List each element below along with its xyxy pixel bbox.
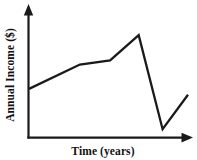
chart-plot-area: Time (years) Annual Income ($) bbox=[0, 0, 197, 160]
line-chart: Time (years) Annual Income ($) bbox=[0, 0, 197, 160]
y-axis-label: Annual Income ($) bbox=[4, 28, 17, 122]
income-data-line bbox=[29, 35, 188, 129]
horizontal-axis-arrow-icon bbox=[182, 133, 194, 143]
x-axis-label: Time (years) bbox=[71, 145, 134, 158]
vertical-axis-arrow-icon bbox=[24, 4, 33, 16]
